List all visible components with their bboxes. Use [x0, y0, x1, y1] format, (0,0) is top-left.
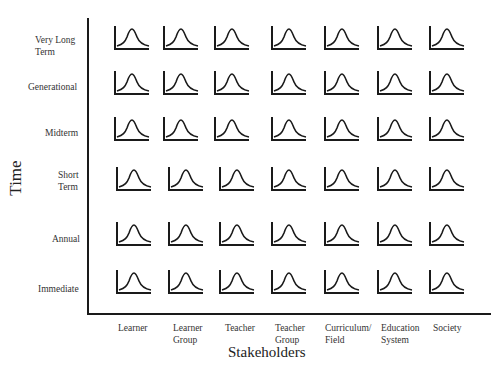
row-label-very-long-term: Very Long Term	[35, 34, 75, 58]
bell-curve-icon	[428, 269, 466, 295]
col-label-line: Learner	[173, 322, 203, 334]
row-label-line: Term	[35, 46, 75, 58]
row-label-line: Short	[58, 169, 79, 181]
bell-curve-icon	[376, 70, 414, 96]
bell-curve-icon	[218, 269, 256, 295]
row-label-generational: Generational	[28, 81, 77, 93]
col-label-line: Education	[381, 322, 420, 334]
bell-curve-icon	[162, 70, 200, 96]
bell-curve-icon	[218, 166, 256, 192]
bell-curve-icon	[376, 221, 414, 247]
bell-curve-icon	[213, 25, 251, 51]
bell-curve-icon	[167, 221, 205, 247]
row-label-immediate: Immediate	[38, 283, 79, 295]
bell-curve-icon	[162, 116, 200, 142]
row-label-line: Annual	[52, 233, 80, 245]
row-label-line: Immediate	[38, 283, 79, 295]
x-axis-line	[87, 313, 491, 315]
bell-curve-icon	[113, 70, 151, 96]
bell-curve-icon	[376, 25, 414, 51]
col-label-society: Society	[433, 322, 462, 334]
bell-curve-icon	[376, 269, 414, 295]
bell-curve-icon	[270, 116, 308, 142]
col-label-line: Group	[275, 334, 305, 346]
bell-curve-icon	[167, 269, 205, 295]
bell-curve-icon	[115, 269, 153, 295]
col-label-line: Group	[173, 334, 203, 346]
bell-curve-icon	[270, 269, 308, 295]
bell-curve-icon	[218, 221, 256, 247]
bell-curve-icon	[428, 166, 466, 192]
bell-curve-icon	[376, 166, 414, 192]
col-label-line: Teacher	[275, 322, 305, 334]
col-label-teacher-group: Teacher Group	[275, 322, 305, 346]
bell-curve-icon	[213, 70, 251, 96]
bell-curve-icon	[323, 116, 361, 142]
bell-curve-icon	[323, 221, 361, 247]
bell-curve-icon	[376, 116, 414, 142]
bell-curve-icon	[323, 70, 361, 96]
bell-curve-icon	[113, 25, 151, 51]
row-label-annual: Annual	[52, 233, 80, 245]
bell-curve-icon	[323, 166, 361, 192]
bell-curve-icon	[162, 25, 200, 51]
bell-curve-icon	[270, 166, 308, 192]
x-axis-title: Stakeholders	[228, 344, 305, 361]
bell-curve-icon	[167, 166, 205, 192]
bell-curve-icon	[428, 116, 466, 142]
row-label-line: Midterm	[45, 127, 78, 139]
bell-curve-icon	[115, 221, 153, 247]
bell-curve-icon	[323, 25, 361, 51]
col-label-curriculum-field: Curriculum/ Field	[325, 322, 371, 346]
col-label-line: Society	[433, 322, 462, 334]
col-label-line: Teacher	[225, 322, 255, 334]
col-label-line: Learner	[118, 322, 148, 334]
col-label-line: Field	[325, 334, 371, 346]
bell-curve-icon	[428, 25, 466, 51]
col-label-education-system: Education System	[381, 322, 420, 346]
row-label-line: Very Long	[35, 34, 75, 46]
bell-curve-icon	[270, 25, 308, 51]
bell-curve-icon	[428, 221, 466, 247]
col-label-line: Curriculum/	[325, 322, 371, 334]
col-label-learner: Learner	[118, 322, 148, 334]
y-axis-title: Time	[6, 160, 26, 195]
row-label-line: Term	[58, 181, 79, 193]
bell-curve-icon	[270, 221, 308, 247]
bell-curve-icon	[213, 116, 251, 142]
bell-curve-icon	[323, 269, 361, 295]
bell-curve-icon	[115, 166, 153, 192]
col-label-line: System	[381, 334, 420, 346]
bell-curve-icon	[270, 70, 308, 96]
bell-curve-icon	[428, 70, 466, 96]
y-axis-line	[87, 18, 89, 315]
row-label-short-term: Short Term	[58, 169, 79, 193]
row-label-midterm: Midterm	[45, 127, 78, 139]
col-label-learner-group: Learner Group	[173, 322, 203, 346]
col-label-teacher: Teacher	[225, 322, 255, 334]
bell-curve-icon	[113, 116, 151, 142]
row-label-line: Generational	[28, 81, 77, 93]
